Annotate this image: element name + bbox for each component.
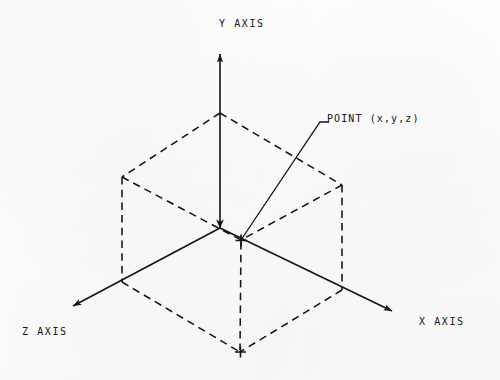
axes-group	[73, 54, 392, 311]
cube-wireframe	[122, 113, 342, 352]
cube-top-edge-apex-right	[220, 113, 342, 185]
point-leader-line	[241, 122, 329, 240]
point-projection-cross	[235, 347, 246, 358]
y-axis-label: Y AXIS	[219, 18, 265, 29]
x-axis-label: X AXIS	[419, 316, 465, 327]
z-axis-line	[73, 228, 220, 306]
z-axis-label: Z AXIS	[22, 326, 68, 337]
point-annotation-group	[235, 122, 329, 358]
cube-top-edge-left-front	[122, 177, 241, 240]
diagram-canvas: Y AXIS X AXIS Z AXIS POINT (x,y,z)	[0, 0, 500, 380]
cube-top-edge-apex-left	[122, 113, 220, 177]
cube-bottom-edge-left	[122, 282, 240, 352]
cube-vertical-edge-front	[240, 242, 241, 350]
cube-bottom-edge-right	[240, 290, 342, 352]
cube-top-edge-right-front	[241, 185, 342, 240]
point-label: POINT (x,y,z)	[327, 113, 420, 124]
